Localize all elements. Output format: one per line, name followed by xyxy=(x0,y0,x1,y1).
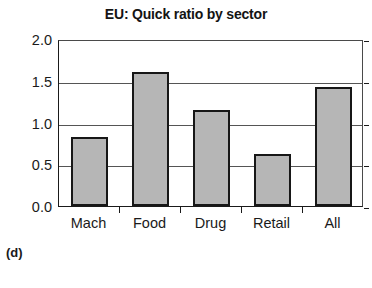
y-axis-tick-label: 2.0 xyxy=(0,33,52,48)
y-axis-tick-label: 1.0 xyxy=(0,116,52,131)
bar-retail xyxy=(254,154,292,206)
x-axis-tick-label: Retail xyxy=(253,212,290,234)
bar-all xyxy=(315,87,353,206)
y-axis-tick-label: 0.5 xyxy=(0,158,52,173)
y-axis-tick-label: 1.5 xyxy=(0,75,52,90)
x-axis-tick-label: Mach xyxy=(71,212,106,234)
x-axis-tick-label: All xyxy=(324,212,340,234)
y-axis-tick xyxy=(364,208,369,209)
chart-figure: EU: Quick ratio by sector 0.00.51.01.52.… xyxy=(0,0,372,288)
y-axis-tick xyxy=(364,41,369,42)
bar-drug xyxy=(193,110,231,206)
panel-caption: (d) xyxy=(6,245,23,260)
bar-food xyxy=(132,72,170,206)
y-axis-tick xyxy=(364,125,369,126)
x-axis: MachFoodDrugRetailAll xyxy=(58,212,363,236)
y-axis: 0.00.51.01.52.0 xyxy=(0,40,52,207)
y-axis-tick xyxy=(364,83,369,84)
plot-area xyxy=(58,40,363,207)
x-axis-tick-label: Drug xyxy=(195,212,226,234)
bars-layer xyxy=(59,41,362,206)
bar-mach xyxy=(71,137,109,206)
x-axis-tick-label: Food xyxy=(133,212,166,234)
chart-title: EU: Quick ratio by sector xyxy=(0,6,372,22)
y-axis-tick xyxy=(364,166,369,167)
y-axis-tick-label: 0.0 xyxy=(0,200,52,215)
